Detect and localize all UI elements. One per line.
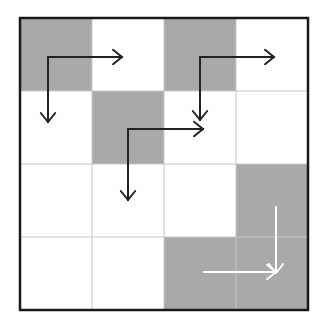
empty-cell — [236, 91, 308, 164]
shaded-cell — [236, 237, 308, 310]
shaded-cell — [20, 18, 92, 91]
shaded-cell — [164, 237, 236, 310]
empty-cell — [164, 164, 236, 237]
empty-cell — [20, 91, 92, 164]
empty-cell — [92, 18, 164, 91]
empty-cell — [20, 237, 92, 310]
shaded-cell — [236, 164, 308, 237]
empty-cell — [20, 164, 92, 237]
empty-cell — [92, 237, 164, 310]
grid-diagram — [0, 0, 320, 327]
